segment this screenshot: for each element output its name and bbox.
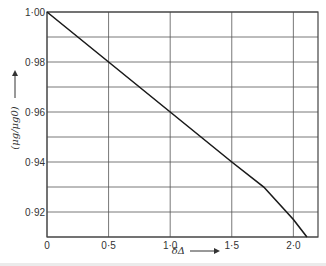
y-axis-label-group: (μg/μg0) [9, 70, 20, 150]
y-tick-label: 0·96 [25, 107, 45, 118]
y-tick-label: 0·92 [25, 207, 45, 218]
x-arrowhead-icon [214, 248, 220, 254]
y-axis-label: (μg/μg0) [9, 106, 20, 149]
x-axis-label-group: δΔ [172, 245, 220, 256]
y-tick-label: 0·94 [25, 157, 45, 168]
y-axis-ticks: 1·000·980·960·940·92 [25, 7, 45, 218]
y-tick-label: 0·98 [25, 57, 45, 68]
x-axis-label: δΔ [172, 245, 185, 256]
x-tick-label: 2·0 [286, 240, 301, 251]
chart: 00·51·01·52·0 1·000·980·960·940·92 δΔ (μ… [0, 0, 326, 266]
x-tick-label: 0 [44, 240, 50, 251]
data-line [47, 12, 307, 237]
x-tick-label: 1·5 [225, 240, 240, 251]
y-tick-label: 1·00 [25, 7, 45, 18]
y-arrowhead-icon [12, 70, 18, 76]
x-tick-label: 0·5 [101, 240, 116, 251]
